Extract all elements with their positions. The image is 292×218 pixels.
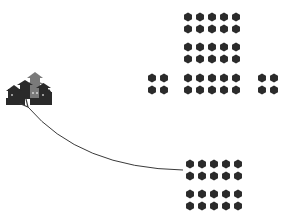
hexagon-token-icon bbox=[148, 85, 156, 94]
hexagon-token-icon bbox=[220, 73, 228, 82]
hexagon-token-icon bbox=[198, 171, 206, 180]
hexagon-token-icon bbox=[232, 12, 240, 21]
hexagon-token-icon bbox=[232, 24, 240, 33]
hexagon-token-icon bbox=[184, 73, 192, 82]
hexagon-token-icon bbox=[208, 85, 216, 94]
hexagon-token-icon bbox=[220, 24, 228, 33]
hexagon-token-icon bbox=[232, 73, 240, 82]
hexagon-token-icon bbox=[184, 54, 192, 63]
hexagon-token-icon bbox=[258, 85, 266, 94]
hexagon-token-icon bbox=[220, 54, 228, 63]
hexagon-token-icon bbox=[196, 42, 204, 51]
unit-group-right-flank bbox=[258, 73, 278, 94]
hexagon-token-icon bbox=[198, 201, 206, 210]
hexagon-token-icon bbox=[208, 24, 216, 33]
hexagon-token-icon bbox=[270, 73, 278, 82]
unit-group-rear-block-a bbox=[186, 159, 242, 180]
hexagon-token-icon bbox=[196, 73, 204, 82]
hexagon-token-icon bbox=[160, 73, 168, 82]
unit-group-top-block-row-2 bbox=[184, 42, 240, 63]
hexagon-token-icon bbox=[234, 189, 242, 198]
hexagon-token-icon bbox=[270, 85, 278, 94]
hexagon-token-icon bbox=[184, 24, 192, 33]
hexagon-token-icon bbox=[232, 54, 240, 63]
hexagon-token-icon bbox=[222, 189, 230, 198]
hexagon-token-icon bbox=[208, 54, 216, 63]
hexagon-token-icon bbox=[196, 12, 204, 21]
hexagon-token-icon bbox=[210, 189, 218, 198]
hexagon-token-icon bbox=[184, 85, 192, 94]
hexagon-token-icon bbox=[210, 201, 218, 210]
movement-arrow bbox=[28, 107, 183, 170]
hexagon-token-icon bbox=[220, 42, 228, 51]
hexagon-token-icon bbox=[210, 171, 218, 180]
unit-group-left-flank bbox=[148, 73, 168, 94]
hexagon-token-icon bbox=[184, 12, 192, 21]
hexagon-token-icon bbox=[148, 73, 156, 82]
hexagon-token-icon bbox=[186, 171, 194, 180]
hexagon-token-icon bbox=[208, 42, 216, 51]
hexagon-token-icon bbox=[196, 85, 204, 94]
hexagon-token-icon bbox=[258, 73, 266, 82]
hexagon-token-icon bbox=[222, 159, 230, 168]
unit-group-center-block bbox=[184, 73, 240, 94]
hexagon-token-icon bbox=[220, 12, 228, 21]
hexagon-token-icon bbox=[186, 159, 194, 168]
unit-tokens bbox=[148, 12, 278, 210]
unit-group-rear-block-b bbox=[186, 189, 242, 210]
hexagon-token-icon bbox=[208, 73, 216, 82]
hexagon-token-icon bbox=[220, 85, 228, 94]
unit-group-top-block-row-1 bbox=[184, 12, 240, 33]
hexagon-token-icon bbox=[232, 85, 240, 94]
hexagon-token-icon bbox=[196, 54, 204, 63]
hexagon-token-icon bbox=[208, 12, 216, 21]
hexagon-token-icon bbox=[184, 42, 192, 51]
hexagon-token-icon bbox=[198, 189, 206, 198]
hexagon-token-icon bbox=[210, 159, 218, 168]
hexagon-token-icon bbox=[198, 159, 206, 168]
diagram-canvas bbox=[0, 0, 292, 218]
castle-icon bbox=[6, 72, 52, 105]
hexagon-token-icon bbox=[186, 201, 194, 210]
hexagon-token-icon bbox=[186, 189, 194, 198]
hexagon-token-icon bbox=[160, 85, 168, 94]
hexagon-token-icon bbox=[232, 42, 240, 51]
formation-diagram bbox=[0, 0, 292, 218]
hexagon-token-icon bbox=[222, 201, 230, 210]
hexagon-token-icon bbox=[196, 24, 204, 33]
hexagon-token-icon bbox=[222, 171, 230, 180]
hexagon-token-icon bbox=[234, 171, 242, 180]
hexagon-token-icon bbox=[234, 159, 242, 168]
hexagon-token-icon bbox=[234, 201, 242, 210]
